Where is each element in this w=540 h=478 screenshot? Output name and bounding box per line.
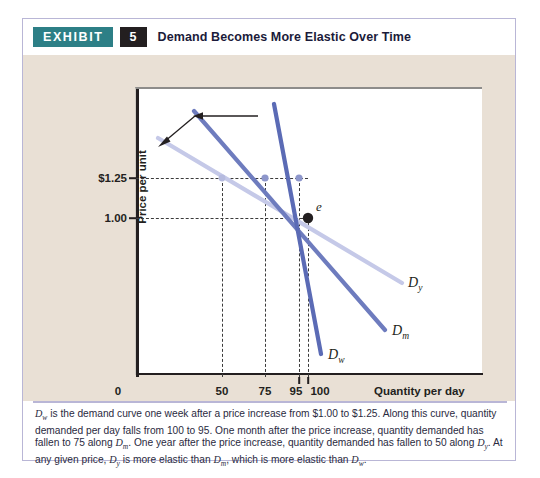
x-tick-label-0: 0 — [115, 385, 121, 397]
x-tick-mark-95 — [298, 377, 300, 384]
caption-dm-2: D — [213, 454, 220, 465]
y-tick-mark-100 — [129, 217, 136, 219]
curve-label-dy-letter: D — [408, 275, 418, 290]
caption-line4b: is more elastic than — [123, 454, 211, 465]
caption-area: Dw is the demand curve one week after a … — [23, 401, 515, 460]
caption-period-1: . — [128, 437, 131, 448]
caption-comma-1: , — [226, 454, 229, 465]
curve-label-dw: Dw — [328, 347, 344, 365]
caption-dw-2: D — [351, 454, 358, 465]
x-tick-label-50: 50 — [216, 385, 229, 397]
caption-dw-1-sub: w — [42, 413, 47, 422]
demand-curves — [136, 89, 483, 377]
curve-label-dy: Dy — [408, 275, 422, 293]
point-dy-125 — [219, 175, 226, 182]
caption-line3a: to 75 along — [62, 437, 112, 448]
curve-label-dm-letter: D — [392, 323, 402, 338]
curve-label-dm-sub: m — [402, 331, 409, 341]
exhibit-header: EXHIBIT 5 Demand Becomes More Elastic Ov… — [23, 19, 515, 55]
caption-line4a: given price, — [54, 454, 106, 465]
point-e-marker — [303, 213, 313, 223]
curve-dm — [194, 111, 385, 330]
curve-label-dm: Dm — [392, 323, 409, 341]
y-tick-label-125: $1.25 — [98, 172, 127, 184]
caption-dy-2: D — [109, 454, 116, 465]
caption-period-2: . — [488, 437, 491, 448]
y-tick-label-100: 1.00 — [105, 212, 127, 224]
caption-line4c: which is more elastic than — [232, 454, 349, 465]
point-dw-125 — [295, 174, 302, 181]
point-dm-125 — [261, 174, 268, 181]
caption-dy-2-sub: y — [117, 459, 120, 468]
x-tick-label-95: 95 — [290, 385, 303, 397]
caption-divider — [33, 401, 507, 403]
exhibit-title: Demand Becomes More Elastic Over Time — [158, 30, 412, 44]
arrow-horizontal-left — [193, 112, 258, 120]
curve-label-dw-letter: D — [328, 347, 338, 362]
caption-dm-1: D — [115, 437, 122, 448]
curve-label-dy-sub: y — [418, 283, 422, 293]
y-tick-mark-125 — [129, 177, 136, 179]
curve-label-dw-sub: w — [338, 355, 344, 365]
point-e-label: e — [316, 199, 322, 215]
x-tick-label-75: 75 — [259, 385, 272, 397]
exhibit-number-badge: 5 — [120, 27, 147, 48]
exhibit-frame: EXHIBIT 5 Demand Becomes More Elastic Ov… — [22, 18, 516, 461]
plot-panel: Price per unit Quantity per day — [135, 87, 482, 375]
chart-plate: Price per unit Quantity per day — [23, 55, 515, 401]
caption-dy-1: D — [477, 437, 484, 448]
x-tick-mark-100 — [307, 377, 309, 384]
caption-text: Dw is the demand curve one week after a … — [35, 408, 503, 470]
caption-line1: is the demand curve one week after a pri… — [50, 408, 496, 419]
x-axis-title: Quantity per day — [374, 385, 465, 397]
caption-period-3: . — [364, 454, 367, 465]
x-tick-label-100: 100 — [310, 385, 329, 397]
exhibit-badge: EXHIBIT — [33, 27, 113, 48]
arrow-diagonal-down-left — [158, 116, 195, 147]
caption-line3b: One year after the price increase, quant… — [134, 437, 474, 448]
